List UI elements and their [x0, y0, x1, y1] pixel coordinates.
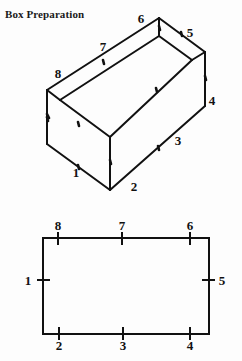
tick-inner-right — [156, 88, 157, 92]
box-label-7: 7 — [100, 40, 107, 53]
wall-thickness-left-corner — [47, 90, 60, 100]
rect-label-7: 7 — [119, 219, 126, 232]
box-label-3: 3 — [175, 134, 182, 147]
inner-edge-back-left — [60, 36, 159, 100]
rect-label-8: 8 — [55, 219, 62, 232]
rect-label-3: 3 — [120, 339, 127, 352]
box-label-4: 4 — [209, 94, 216, 107]
box-label-8: 8 — [55, 67, 62, 80]
rect-label-2: 2 — [56, 339, 63, 352]
tick-edge-4 — [205, 76, 206, 80]
tick-edge-5 — [181, 32, 182, 36]
tick-edge-6 — [159, 26, 160, 30]
edge-7-top-back-left — [47, 18, 159, 90]
tick-inner-left — [78, 122, 79, 126]
box-label-2: 2 — [131, 180, 138, 193]
inner-floor-right — [110, 60, 192, 137]
tick-edge-7 — [103, 60, 104, 64]
tick-edge-front — [110, 160, 111, 164]
wall-thickness-right-corner — [192, 52, 205, 60]
box-label-5: 5 — [187, 26, 194, 39]
net-tick-marks — [37, 232, 215, 340]
inner-floor-left — [60, 100, 110, 137]
box-preparation-figure: Box Preparation — [0, 0, 242, 361]
rect-label-1: 1 — [25, 274, 32, 287]
tick-edge-3 — [158, 146, 159, 150]
rect-label-5: 5 — [219, 274, 226, 287]
open-box-3d-drawing — [0, 0, 242, 210]
box-label-1: 1 — [73, 166, 80, 179]
edge-midpoint-ticks — [47, 26, 206, 169]
tick-edge-8b — [47, 117, 48, 121]
rect-label-4: 4 — [187, 339, 194, 352]
rect-label-6: 6 — [187, 219, 194, 232]
net-rectangle — [43, 238, 209, 334]
box-label-6: 6 — [138, 12, 145, 25]
